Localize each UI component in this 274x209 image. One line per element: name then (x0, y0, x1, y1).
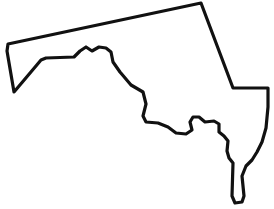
map-figure: Maryland (0, 0, 274, 209)
maryland-outline-svg (0, 0, 274, 209)
